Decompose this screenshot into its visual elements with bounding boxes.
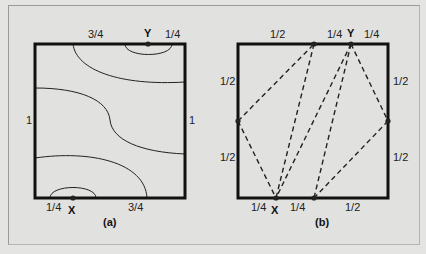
path-y-to-x [276,44,351,198]
caption-a: (a) [103,216,117,228]
path-left-to-top [238,44,314,121]
label-b-bottom-1: 1/4 [251,201,266,213]
label-a-right: 1 [189,114,195,126]
label-a-point-x: X [68,204,76,216]
panel-b: 1/2 1/4 Y 1/4 1/2 1/2 1/2 1/2 1/4 X 1/4 … [220,27,408,228]
label-b-point-x: X [271,204,279,216]
path-y-to-right [351,44,388,121]
label-b-left-top: 1/2 [220,75,235,87]
label-b-right-top: 1/2 [393,75,408,87]
label-b-top-2: 1/4 [327,28,342,40]
label-a-left: 1 [26,114,32,126]
label-b-left-bottom: 1/2 [220,151,235,163]
point-x-dot [273,195,278,200]
label-a-bottom-right: 3/4 [128,201,143,213]
label-b-bottom-3: 1/2 [345,201,360,213]
path-top-to-x [276,44,314,198]
contour-middle [35,88,185,154]
point-x-dot [70,195,75,200]
dot-top-mid [311,41,316,46]
label-b-right-bottom: 1/2 [393,151,408,163]
contour-lines [35,44,185,198]
label-a-bottom-left: 1/4 [46,201,61,213]
path-left-to-x [238,121,276,198]
dot-bottom-mid [311,195,316,200]
caption-b: (b) [315,216,329,228]
dot-right-mid [385,118,390,123]
point-y-dot [145,41,150,46]
label-b-bottom-2: 1/4 [290,201,305,213]
path-right-to-bottom [314,121,388,198]
figure-canvas: 3/4 Y 1/4 1 1 1/4 X 3/4 (a) 1/2 1/4 Y 1/… [0,0,426,254]
label-a-top-left: 3/4 [88,28,103,40]
label-a-point-y: Y [144,27,152,39]
label-a-top-right: 1/4 [165,28,180,40]
point-y-dot [348,41,353,46]
dashed-paths [238,44,388,198]
label-b-top-3: 1/4 [364,28,379,40]
label-b-point-y: Y [347,27,355,39]
path-y-to-bottom [314,44,351,198]
panel-a: 3/4 Y 1/4 1 1 1/4 X 3/4 (a) [26,27,195,228]
dot-left-mid [235,118,240,123]
label-b-top-1: 1/2 [270,28,285,40]
